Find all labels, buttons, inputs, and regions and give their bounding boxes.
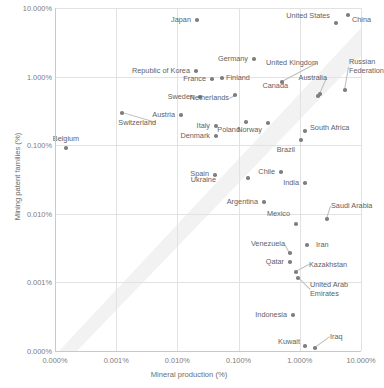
data-point[interactable]	[120, 111, 124, 115]
x-axis-title: Mineral production (%)	[0, 370, 378, 379]
data-point-label: Netherlands	[190, 94, 229, 103]
data-point-label: Finland	[226, 74, 250, 83]
data-point[interactable]	[64, 146, 68, 150]
data-point-label: Iran	[316, 241, 329, 250]
y-tick-label: 0.001%	[27, 278, 52, 287]
data-point[interactable]	[244, 120, 248, 124]
data-point[interactable]	[294, 270, 298, 274]
data-point-label: Venezuela	[251, 240, 285, 249]
data-point[interactable]	[179, 113, 183, 117]
data-point-label: Iraq	[330, 333, 343, 342]
data-point-label: France	[183, 75, 206, 84]
data-point-label: United Arab Emirates	[310, 281, 348, 298]
x-tick-label: 0.001%	[104, 356, 129, 365]
data-point[interactable]	[291, 313, 295, 317]
data-point[interactable]	[294, 222, 298, 226]
y-axis-line	[55, 8, 56, 351]
data-point[interactable]	[303, 129, 307, 133]
data-point-label: Chile	[258, 168, 275, 177]
data-point[interactable]	[303, 181, 307, 185]
data-point-label: Kuwait	[278, 338, 300, 347]
data-point[interactable]	[252, 57, 256, 61]
data-point[interactable]	[262, 200, 266, 204]
data-point-label: Indonesia	[255, 311, 287, 320]
data-point-label: Denmark	[180, 132, 210, 141]
data-point-label: Italy	[197, 122, 210, 131]
data-point[interactable]	[325, 217, 329, 221]
data-point-label: Mexico	[267, 210, 290, 219]
plot-area: JapanUnited StatesChinaGermanyUnited Kin…	[55, 8, 361, 351]
x-tick-label: 10.000%	[346, 356, 375, 365]
data-point-label: South Africa	[310, 124, 349, 133]
data-point-label: United States	[286, 12, 330, 21]
data-point[interactable]	[210, 77, 214, 81]
gridline-vertical	[177, 8, 178, 351]
data-point-label: United Kingdom	[266, 59, 318, 68]
data-point[interactable]	[299, 138, 303, 142]
gridline-horizontal	[55, 8, 361, 9]
data-point[interactable]	[288, 251, 292, 255]
gridline-vertical	[116, 8, 117, 351]
gridline-horizontal	[55, 145, 361, 146]
gridline-horizontal	[55, 214, 361, 215]
data-point-label: Russian Federation	[349, 58, 384, 75]
data-point[interactable]	[316, 94, 320, 98]
data-point-label: Kazakhstan	[309, 261, 347, 270]
data-point[interactable]	[305, 243, 309, 247]
data-point-label: India	[283, 179, 299, 188]
y-tick-label: 1.000%	[27, 72, 52, 81]
y-tick-label: 0.010%	[27, 209, 52, 218]
data-point[interactable]	[214, 134, 218, 138]
x-tick-label: 0.010%	[165, 356, 190, 365]
data-point[interactable]	[220, 76, 224, 80]
data-point[interactable]	[303, 344, 307, 348]
y-tick-label: 0.100%	[27, 141, 52, 150]
data-point[interactable]	[313, 346, 317, 350]
data-point[interactable]	[279, 170, 283, 174]
data-point[interactable]	[246, 176, 250, 180]
data-point[interactable]	[266, 121, 270, 125]
data-point[interactable]	[296, 276, 300, 280]
y-axis-title: Mining patent families (%)	[13, 87, 22, 267]
data-point-label: Canada	[262, 82, 288, 91]
x-tick-label: 0.000%	[42, 356, 67, 365]
data-point-label: Japan	[171, 16, 191, 25]
data-point[interactable]	[214, 124, 218, 128]
data-point-label: China	[352, 16, 371, 25]
x-tick-label: 0.100%	[226, 356, 251, 365]
data-point-label: Qatar	[266, 258, 284, 267]
data-point[interactable]	[334, 21, 338, 25]
y-tick-label: 0.000%	[27, 347, 52, 356]
data-point-label: Germany	[218, 55, 248, 64]
data-point[interactable]	[288, 260, 292, 264]
data-point-label: Saudi Arabia	[331, 202, 372, 211]
data-point-label: Brazil	[277, 146, 295, 155]
data-point-label: Switzerland	[118, 119, 156, 128]
data-point-label: Belgium	[53, 135, 79, 144]
x-tick-label: 1.000%	[287, 356, 312, 365]
y-tick-label: 10.000%	[23, 4, 52, 13]
data-point[interactable]	[233, 93, 237, 97]
data-point-label: Argentina	[227, 198, 258, 207]
data-point[interactable]	[194, 69, 198, 73]
data-point-label: Australia	[299, 74, 327, 83]
data-point-label: Norway	[237, 126, 262, 135]
data-point[interactable]	[346, 13, 350, 17]
x-axis-line	[55, 351, 361, 352]
data-point[interactable]	[195, 18, 199, 22]
data-point[interactable]	[343, 88, 347, 92]
data-point-label: Republic of Korea	[132, 67, 190, 76]
data-point-label: Ukraine	[191, 176, 216, 185]
